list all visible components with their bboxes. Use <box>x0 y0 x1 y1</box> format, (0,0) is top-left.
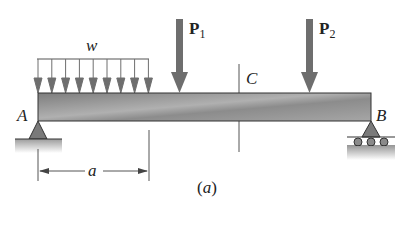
beam <box>38 93 371 121</box>
section-label-c: C <box>246 69 258 88</box>
roller-support-b <box>347 121 395 160</box>
figure-caption: (a) <box>197 178 217 197</box>
distributed-load-label: w <box>86 36 98 55</box>
distributed-load: w <box>34 36 152 93</box>
dimension-label-a: a <box>88 161 97 180</box>
point-load-p2: P2 <box>301 19 335 93</box>
pin-support-a <box>15 121 62 153</box>
support-label-b: B <box>376 106 387 125</box>
p2-label: P2 <box>319 19 335 41</box>
distributed-load-arrows <box>34 59 152 93</box>
p1-label: P1 <box>189 19 205 41</box>
support-label-a: A <box>16 106 28 125</box>
dimension-a: a <box>38 130 149 181</box>
point-load-p1: P1 <box>171 19 205 93</box>
beam-diagram: w C P1 P2 A B a <box>0 0 408 235</box>
